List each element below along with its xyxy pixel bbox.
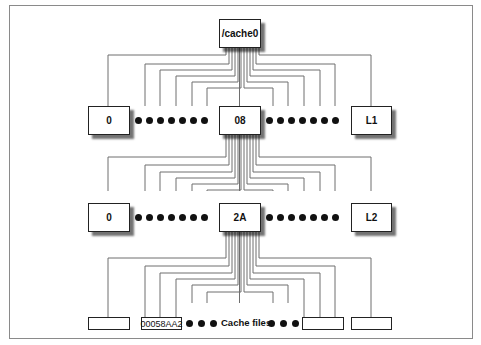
ellipsis-dot xyxy=(288,117,295,124)
ellipsis-dot xyxy=(277,214,284,221)
leaves-right-ellipsis xyxy=(268,320,299,327)
cache-files-caption: Cache files xyxy=(221,317,271,328)
ellipsis-dot xyxy=(198,320,205,327)
ellipsis-dot xyxy=(310,117,317,124)
ellipsis-dot xyxy=(201,117,208,124)
ellipsis-dot xyxy=(266,214,273,221)
ellipsis-dot xyxy=(179,117,186,124)
root-node: /cache0 xyxy=(219,19,261,48)
ellipsis-dot xyxy=(190,214,197,221)
ellipsis-dot xyxy=(299,117,306,124)
level2-middle-node: 2A xyxy=(219,203,261,232)
cache-file-leaf xyxy=(302,317,344,330)
ellipsis-dot xyxy=(135,214,142,221)
ellipsis-dot xyxy=(168,214,175,221)
level1-first-label: 0 xyxy=(106,115,112,126)
cache-file-leaf xyxy=(351,317,392,330)
ellipsis-dot xyxy=(288,214,295,221)
level1-left-ellipsis xyxy=(135,117,208,124)
level2-right-ellipsis xyxy=(266,214,339,221)
ellipsis-dot xyxy=(292,320,299,327)
ellipsis-dot xyxy=(321,214,328,221)
ellipsis-dot xyxy=(321,117,328,124)
level2-first-node: 0 xyxy=(88,203,130,232)
ellipsis-dot xyxy=(266,117,273,124)
ellipsis-dot xyxy=(179,214,186,221)
cache-file-name: 00058AA2 xyxy=(140,319,182,329)
ellipsis-dot xyxy=(201,214,208,221)
ellipsis-dot xyxy=(186,320,193,327)
ellipsis-dot xyxy=(332,117,339,124)
ellipsis-dot xyxy=(310,214,317,221)
ellipsis-dot xyxy=(268,320,275,327)
ellipsis-dot xyxy=(135,117,142,124)
ellipsis-dot xyxy=(210,320,217,327)
ellipsis-dot xyxy=(277,117,284,124)
cache-file-leaf xyxy=(88,317,130,330)
level2-last-node: L2 xyxy=(351,203,392,232)
level1-right-ellipsis xyxy=(266,117,339,124)
root-node-label: /cache0 xyxy=(222,28,259,39)
level2-left-ellipsis xyxy=(135,214,208,221)
level1-middle-label: 08 xyxy=(234,115,245,126)
level2-middle-label: 2A xyxy=(234,212,247,223)
ellipsis-dot xyxy=(190,117,197,124)
level1-last-node: L1 xyxy=(351,106,392,135)
ellipsis-dot xyxy=(280,320,287,327)
connector-lines xyxy=(0,0,481,345)
level1-first-node: 0 xyxy=(88,106,130,135)
cache-file-leaf-named: 00058AA2 xyxy=(141,317,182,330)
level1-middle-node: 08 xyxy=(219,106,261,135)
level1-last-label: L1 xyxy=(366,115,378,126)
ellipsis-dot xyxy=(168,117,175,124)
ellipsis-dot xyxy=(299,214,306,221)
leaves-left-ellipsis xyxy=(186,320,217,327)
level2-last-label: L2 xyxy=(366,212,378,223)
level2-first-label: 0 xyxy=(106,212,112,223)
ellipsis-dot xyxy=(146,117,153,124)
ellipsis-dot xyxy=(332,214,339,221)
ellipsis-dot xyxy=(146,214,153,221)
ellipsis-dot xyxy=(157,117,164,124)
ellipsis-dot xyxy=(157,214,164,221)
